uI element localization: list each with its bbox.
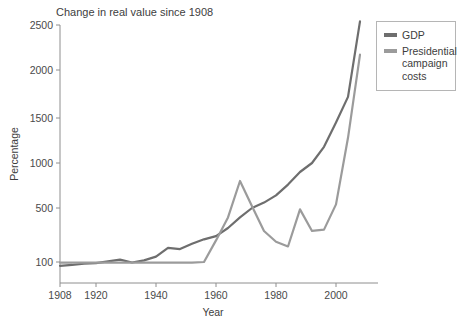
series-group xyxy=(60,21,360,265)
series-line-gdp xyxy=(60,21,360,265)
x-tick-label: 1908 xyxy=(48,289,72,301)
y-tick-label: 1500 xyxy=(30,112,54,124)
x-tick-label: 1920 xyxy=(84,289,108,301)
y-tick-label: 1000 xyxy=(30,157,54,169)
y-tick-label: 500 xyxy=(35,202,53,214)
legend-label-campaign-costs: Presidential campaign costs xyxy=(402,45,457,83)
chart-container: Change in real value since 1908 10050010… xyxy=(0,0,463,323)
legend-label-gdp: GDP xyxy=(402,29,425,42)
legend-item-campaign-costs: Presidential campaign costs xyxy=(384,45,449,83)
axis-labels-group: 1005001000150020002500190819201940196019… xyxy=(8,19,348,318)
x-tick-label: 1960 xyxy=(204,289,228,301)
legend-item-gdp: GDP xyxy=(384,29,449,42)
legend-swatch-campaign-costs xyxy=(384,49,397,53)
x-tick-label: 1940 xyxy=(144,289,168,301)
y-axis-title: Percentage xyxy=(8,127,20,181)
y-tick-label: 2000 xyxy=(30,64,54,76)
chart-legend: GDP Presidential campaign costs xyxy=(376,21,456,91)
legend-swatch-gdp xyxy=(384,33,397,37)
y-tick-label: 2500 xyxy=(30,19,54,31)
x-axis-title: Year xyxy=(202,306,224,318)
x-tick-label: 1980 xyxy=(264,289,288,301)
y-tick-label: 100 xyxy=(35,256,53,268)
axes-group xyxy=(56,25,378,287)
x-tick-label: 2000 xyxy=(324,289,348,301)
